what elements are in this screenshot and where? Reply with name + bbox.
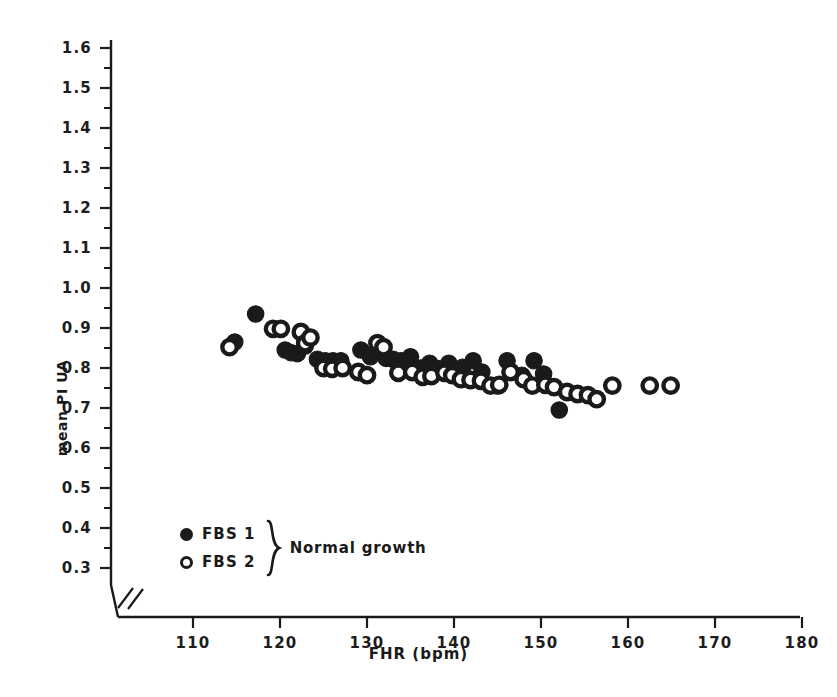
y-tick-label: 1.5 xyxy=(20,79,92,97)
data-point-fbs-2 xyxy=(335,361,349,375)
data-point-fbs-2 xyxy=(360,368,374,382)
y-tick-label: 1.3 xyxy=(20,159,92,177)
y-tick-label: 1.4 xyxy=(20,119,92,137)
y-axis-title: mean PI UA xyxy=(54,328,70,488)
data-point-fbs-2 xyxy=(274,322,288,336)
data-point-fbs-2 xyxy=(643,378,657,392)
x-axis-ticks xyxy=(193,617,802,628)
axis-break-corner xyxy=(111,585,118,617)
y-tick-label: 1.1 xyxy=(20,239,92,257)
legend-entry-fbs-2: FBS 2 xyxy=(180,553,256,571)
legend-label-fbs-2: FBS 2 xyxy=(202,553,256,571)
data-point-fbs-2 xyxy=(222,340,236,354)
legend-entry-fbs-1: FBS 1 xyxy=(180,525,256,543)
curly-brace-icon xyxy=(264,519,284,577)
scatter-plot-figure: 0.30.40.50.60.70.80.91.01.11.21.31.41.51… xyxy=(0,0,837,697)
chart-legend: FBS 1 FBS 2 Normal growth xyxy=(180,519,427,577)
filled-circle-icon xyxy=(180,528,193,541)
legend-group-label: Normal growth xyxy=(290,539,427,557)
open-circle-icon xyxy=(180,556,193,569)
axis-break-marks xyxy=(118,588,143,609)
y-tick-label: 0.4 xyxy=(20,519,92,537)
legend-label-fbs-1: FBS 1 xyxy=(202,525,256,543)
x-axis-title: FHR (bpm) xyxy=(0,645,837,663)
y-tick-label: 1.2 xyxy=(20,199,92,217)
data-point-fbs-2 xyxy=(376,340,390,354)
plot-canvas xyxy=(0,0,837,697)
data-point-fbs-1 xyxy=(551,402,567,418)
data-point-fbs-2 xyxy=(492,378,506,392)
data-point-fbs-2 xyxy=(303,330,317,344)
data-point-fbs-1 xyxy=(247,306,263,322)
data-point-fbs-2 xyxy=(663,378,677,392)
legend-entry-list: FBS 1 FBS 2 xyxy=(180,525,256,571)
data-point-fbs-2 xyxy=(605,378,619,392)
data-point-fbs-2 xyxy=(589,392,603,406)
y-tick-label: 1.6 xyxy=(20,39,92,57)
y-tick-label: 0.3 xyxy=(20,559,92,577)
y-tick-label: 1.0 xyxy=(20,279,92,297)
